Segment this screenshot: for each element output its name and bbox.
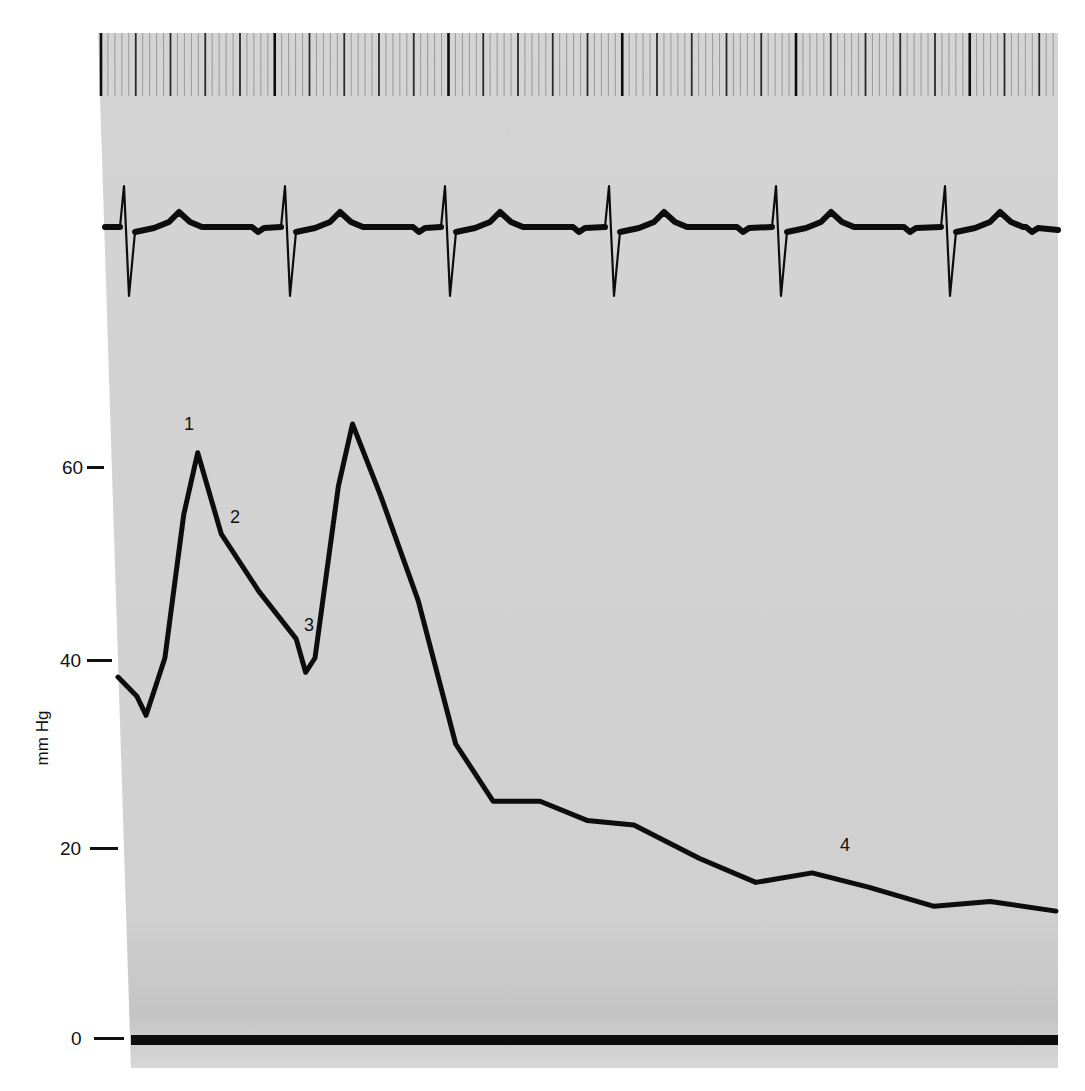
pressure-ecg-recording: 60 40 20 0 mm Hg 1 2 3 4 xyxy=(0,0,1085,1091)
recording-strip xyxy=(0,0,1085,1091)
annotation-4: 4 xyxy=(840,836,850,854)
ytick-label-60: 60 xyxy=(62,458,83,477)
annotation-1: 1 xyxy=(184,415,194,433)
ytick-mark-20 xyxy=(90,847,118,850)
ytick-mark-0 xyxy=(94,1037,124,1040)
zero-baseline xyxy=(131,1035,1058,1045)
annotation-3: 3 xyxy=(304,616,314,634)
ytick-mark-40 xyxy=(87,659,112,662)
ytick-label-20: 20 xyxy=(60,839,81,858)
annotation-2: 2 xyxy=(230,508,240,526)
ytick-label-0: 0 xyxy=(71,1029,82,1048)
paper-background xyxy=(98,33,1058,1068)
ytick-label-40: 40 xyxy=(60,651,81,670)
ytick-mark-60 xyxy=(87,466,104,469)
y-axis-title: mm Hg xyxy=(33,711,53,766)
